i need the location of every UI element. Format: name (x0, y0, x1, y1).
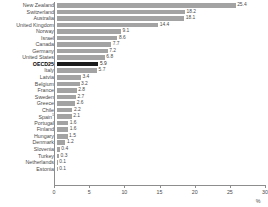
bar (57, 140, 65, 145)
x-tick (89, 185, 90, 188)
x-tick-label: 10 (121, 189, 127, 195)
table-row: Estonia0.1 (0, 166, 268, 173)
y-axis-line (54, 2, 55, 185)
bar (57, 127, 68, 132)
x-tick (124, 185, 125, 188)
category-label: Estonia (0, 166, 57, 173)
bar-chart: New Zealand25.4Switzerland18.2Australia1… (0, 0, 268, 207)
bar (57, 82, 80, 87)
bar (57, 42, 111, 47)
bar (57, 75, 81, 80)
bar (57, 29, 121, 34)
bar (57, 121, 68, 126)
bar (57, 147, 60, 152)
x-tick (230, 185, 231, 188)
x-tick-label: 15 (157, 189, 163, 195)
bar-value-label: 0.1 (59, 166, 66, 173)
x-tick (195, 185, 196, 188)
chart-rows: New Zealand25.4Switzerland18.2Australia1… (0, 2, 268, 172)
x-tick-label: 0 (53, 189, 56, 195)
bar (57, 3, 236, 8)
bar (57, 114, 72, 119)
bar (57, 68, 97, 73)
x-tick-label: 5 (88, 189, 91, 195)
x-tick (265, 185, 266, 188)
bar (57, 95, 76, 100)
bar (57, 154, 59, 159)
bar (57, 167, 58, 172)
bar (57, 23, 158, 28)
bar (57, 10, 185, 15)
bar (57, 55, 105, 60)
bar (57, 101, 75, 106)
bar (57, 36, 117, 41)
x-axis-unit-label: % (256, 198, 261, 204)
x-tick (54, 185, 55, 188)
bar (57, 49, 108, 54)
bar (57, 88, 77, 93)
bar (57, 160, 58, 165)
x-tick-label: 30 (262, 189, 268, 195)
x-tick (160, 185, 161, 188)
bar (57, 108, 72, 113)
bar-area: 0.1 (57, 166, 268, 173)
bar (57, 134, 68, 139)
bar (57, 16, 184, 21)
x-tick-label: 20 (192, 189, 198, 195)
bar (57, 62, 98, 67)
x-tick-label: 25 (227, 189, 233, 195)
